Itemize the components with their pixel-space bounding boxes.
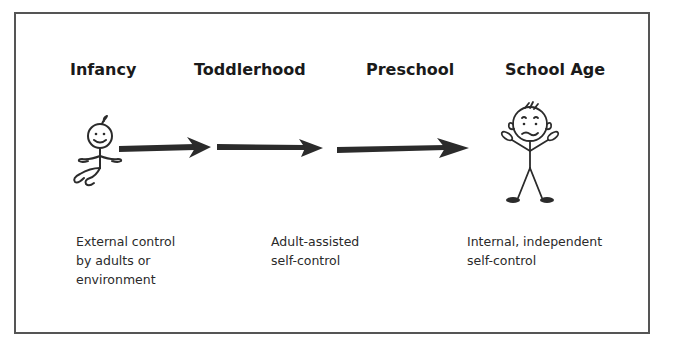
- description-line: by adults or: [76, 251, 175, 270]
- description-line: self-control: [467, 251, 602, 270]
- child-figure-icon: [492, 96, 572, 208]
- arrow-preschool-to-school-age-icon: [337, 138, 469, 158]
- description-infancy: External control by adults or environmen…: [76, 232, 175, 289]
- description-school-age: Internal, independent self-control: [467, 232, 602, 270]
- stage-label-toddlerhood: Toddlerhood: [194, 60, 306, 79]
- description-toddler-preschool: Adult-assisted self-control: [271, 232, 359, 270]
- stage-label-infancy: Infancy: [70, 60, 136, 79]
- description-line: self-control: [271, 251, 359, 270]
- stage-label-school-age: School Age: [505, 60, 605, 79]
- stage-label-preschool: Preschool: [366, 60, 454, 79]
- description-line: External control: [76, 232, 175, 251]
- arrow-sequence: [115, 134, 475, 164]
- description-line: Adult-assisted: [271, 232, 359, 251]
- arrow-toddlerhood-to-preschool-icon: [217, 139, 323, 157]
- description-line: Internal, independent: [467, 232, 602, 251]
- arrow-infancy-to-toddlerhood-icon: [119, 137, 211, 158]
- description-line: environment: [76, 270, 175, 289]
